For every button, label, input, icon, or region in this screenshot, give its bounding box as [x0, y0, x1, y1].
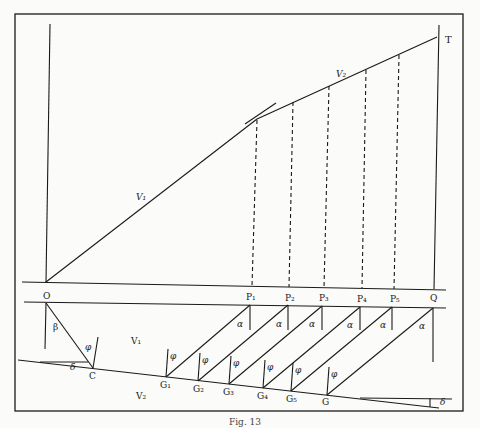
dashed-projections: [252, 55, 399, 289]
label-p5: P₅: [390, 295, 400, 304]
label-origin: O: [43, 292, 50, 301]
dipping-interface: [18, 360, 439, 408]
time-axis: [46, 24, 50, 282]
horizontal-reference-right: [360, 398, 452, 399]
label-p4: P₄: [357, 295, 367, 304]
label-alpha-4: α: [347, 321, 353, 330]
label-g: G: [322, 398, 329, 407]
label-alpha-3: α: [309, 320, 315, 329]
oc-ray: [46, 303, 93, 368]
q-vertical: [434, 25, 439, 289]
label-c: C: [89, 372, 96, 381]
distance-axis: [22, 282, 446, 290]
label-alpha-6: α: [419, 322, 425, 331]
label-delta-right: δ: [440, 398, 445, 407]
figure-caption: Fig. 13: [229, 418, 261, 427]
label-alpha-1: α: [237, 320, 243, 329]
label-phi-g4: φ: [267, 363, 273, 372]
label-beta: β: [53, 323, 58, 332]
label-g1: G₁: [160, 381, 171, 390]
label-phi-g3: φ: [233, 359, 239, 368]
label-phi-g: φ: [331, 370, 337, 379]
slope-v2-line: [257, 37, 437, 119]
label-g3: G₃: [223, 388, 234, 397]
label-slope-v2: V₂: [336, 70, 346, 79]
o-normal: [45, 303, 46, 349]
slope-v1-line: [46, 119, 257, 282]
label-p2: P₂: [285, 294, 295, 303]
label-p1: P₁: [246, 293, 256, 302]
label-phi-g2: φ: [202, 356, 208, 365]
label-layer-v1: V₁: [131, 337, 141, 346]
label-p3: P₃: [319, 294, 329, 303]
label-phi-g5: φ: [295, 366, 301, 375]
c-normal: [93, 337, 98, 368]
label-alpha-2: α: [276, 320, 282, 329]
label-phi-c: φ: [85, 343, 91, 352]
label-alpha-5: α: [380, 321, 386, 330]
label-g2: G₂: [193, 385, 204, 394]
label-phi-g1: φ: [170, 352, 176, 361]
label-g5: G₅: [286, 395, 297, 404]
label-t: T: [445, 35, 452, 45]
refraction-diagram: O T Q V₁ V₂ V₁ V₂ C β δ δ φ P₁ P₂ P₃ P₄ …: [0, 0, 480, 428]
label-layer-v2: V₂: [136, 392, 146, 401]
label-q: Q: [430, 294, 437, 303]
label-slope-v1: V₁: [136, 193, 146, 202]
label-delta-left: δ: [70, 363, 75, 372]
surface-line: [24, 302, 446, 308]
label-g4: G₄: [257, 392, 268, 401]
slope-v2-extension: [245, 103, 276, 124]
